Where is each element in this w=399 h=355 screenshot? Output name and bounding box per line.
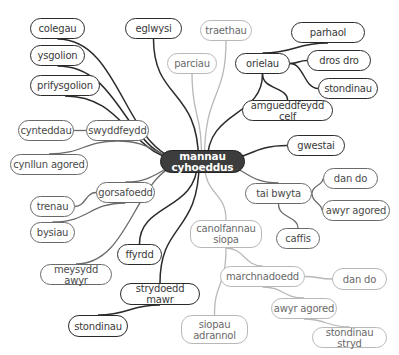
node-cynteddau: cynteddau: [18, 120, 74, 141]
node-caffis: caffis: [276, 228, 320, 249]
node-colegau: colegau: [30, 18, 85, 39]
node-marchnadoedd: marchnadoedd: [220, 266, 305, 287]
connector-tai-bwyta-to-dan-do-r: [312, 179, 323, 194]
node-dan-do-l: dan do: [332, 268, 387, 290]
node-prifysgolion: prifysgolion: [30, 75, 100, 96]
node-strydoedd-mawr: strydoedd mawr: [120, 283, 200, 305]
node-stondinau-bl: stondinau: [68, 315, 128, 337]
node-dan-do-r: dan do: [323, 168, 378, 189]
connector-marchnadoedd-to-awyr-agored-l: [263, 287, 305, 298]
connector-gorsafoedd-to-trenau: [75, 193, 96, 207]
mind-map-canvas: mannau cyhoeddus colegauysgolionprifysgo…: [0, 0, 399, 355]
node-orielau: orielau: [235, 53, 290, 74]
node-dros-dro: dros dro: [307, 50, 371, 71]
node-awyr-agored-r: awyr agored: [322, 200, 390, 221]
connector-strydoedd-mawr-to-stondinau-bl: [98, 305, 160, 315]
node-bysiau: bysiau: [30, 222, 75, 243]
connector-tai-bwyta-to-awyr-agored-r: [312, 194, 322, 211]
node-canolfannau-siopa: canolfannau siopa: [190, 220, 262, 248]
node-ysgolion: ysgolion: [30, 45, 85, 66]
connector-orielau-to-amgueddfeydd-celf: [263, 74, 288, 100]
center-node-mannau-cyhoeddus: mannau cyhoeddus: [160, 150, 245, 173]
connector-tai-bwyta-to-caffis: [279, 204, 299, 228]
connector-marchnadoedd-to-dan-do-l: [305, 277, 332, 280]
node-stondinau-tr: stondinau: [318, 78, 378, 99]
connector-canolfannau-siopa-to-marchnadoedd: [226, 248, 263, 266]
node-meysydd-awyr: meysydd awyr: [40, 264, 112, 285]
node-eglwysi: eglwysi: [125, 18, 182, 39]
node-traethau: traethau: [200, 20, 252, 41]
connector-center-to-parciau: [192, 74, 202, 162]
node-parhaol: parhaol: [291, 22, 365, 43]
node-swyddfeydd: swyddfeydd: [86, 120, 149, 141]
node-ffyrdd: ffyrdd: [117, 244, 162, 265]
connector-swyddfeydd-to-cynllun-agored: [49, 141, 118, 154]
node-siopau-adrannol: siopau adrannol: [181, 315, 248, 344]
node-gorsafoedd: gorsafoedd: [96, 182, 155, 203]
node-tai-bwyta: tai bwyta: [245, 183, 312, 204]
node-awyr-agored-l: awyr agored: [271, 298, 337, 319]
node-parciau: parciau: [167, 53, 217, 74]
node-gwestai: gwestai: [287, 135, 345, 156]
node-cynllun-agored: cynllun agored: [10, 154, 88, 175]
node-amgueddfeydd-celf: amgueddfeydd celf: [242, 100, 333, 121]
connector-center-to-ffyrdd: [140, 162, 198, 245]
node-trenau: trenau: [30, 196, 75, 217]
node-stondinau-stryd: stondinau stryd: [312, 327, 387, 348]
